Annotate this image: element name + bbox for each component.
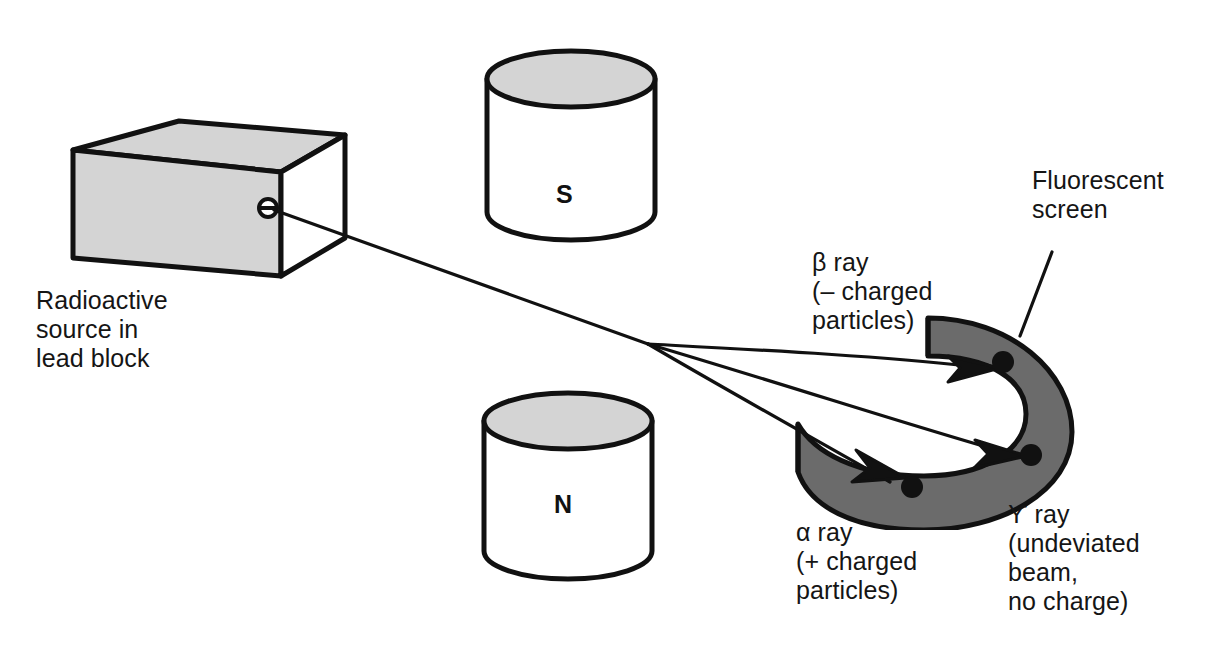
magnet-north-pole-letter: N <box>554 490 572 519</box>
fluorescent-screen-band <box>798 318 1072 530</box>
magnet-south-pole-letter: S <box>556 180 573 209</box>
magnet-north-top <box>484 393 652 449</box>
leader-line-fluorescent-screen <box>1020 252 1052 336</box>
label-alpha-ray: α ray (+ charged particles) <box>796 518 917 605</box>
label-beta-ray: β ray (– charged particles) <box>812 248 933 335</box>
ray-path-beta <box>648 344 968 366</box>
lead-block-left-face <box>73 150 281 276</box>
ray-path-alpha <box>648 344 890 482</box>
magnet-north-pole <box>484 393 652 579</box>
magnet-south-top <box>487 51 655 107</box>
fluorescent-screen <box>798 318 1072 530</box>
label-fluorescent-screen: Fluorescent screen <box>1032 166 1164 224</box>
label-radioactive-source: Radioactive source in lead block <box>36 286 168 373</box>
label-gamma-ray: ϒ ray (undeviated beam, no charge) <box>1008 500 1140 616</box>
lead-block <box>73 121 345 276</box>
impact-dot-gamma <box>1020 444 1042 466</box>
impact-dot-alpha <box>901 476 923 498</box>
source-aperture <box>259 199 277 217</box>
magnet-south-pole <box>487 51 655 240</box>
impact-dot-beta <box>992 351 1014 373</box>
